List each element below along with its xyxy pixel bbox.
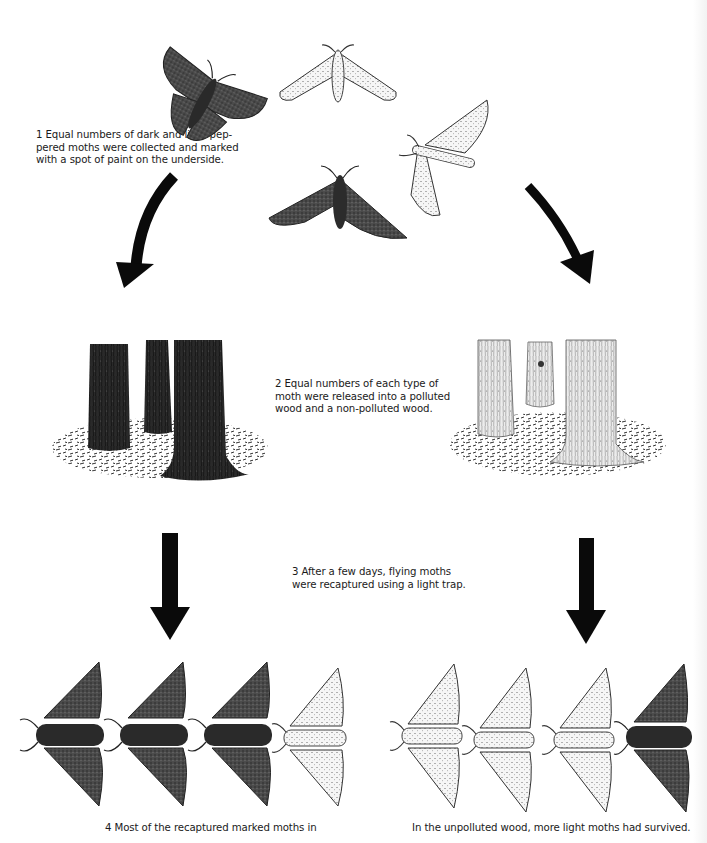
step-2-line: wood and a non-polluted wood.	[275, 403, 460, 416]
step-2-caption: 2 Equal numbers of each type of moth wer…	[275, 378, 460, 416]
unpolluted-wood-illustration	[448, 336, 668, 486]
conclusion-line: In the unpolluted wood, more light moths…	[412, 822, 707, 835]
dark-moth-icon	[140, 48, 260, 168]
step-4-caption: 4 Most of the recaptured marked moths in	[105, 822, 345, 835]
down-arrow-polluted-icon	[150, 533, 192, 643]
step-2-line: moth were released into a polluted	[275, 391, 460, 404]
step-4-line: 4 Most of the recaptured marked moths in	[105, 822, 345, 835]
light-moth-icon	[272, 40, 404, 110]
polluted-wood-illustration	[50, 336, 270, 486]
page-edge-shadow	[693, 0, 707, 843]
arrow-to-polluted-wood-icon	[110, 172, 190, 292]
unpolluted-conclusion-caption: In the unpolluted wood, more light moths…	[412, 822, 707, 835]
step-3-line: were recaptured using a light trap.	[292, 579, 477, 592]
recaptured-unpolluted-row	[384, 662, 694, 814]
arrow-to-unpolluted-wood-icon	[520, 180, 600, 290]
step-3-caption: 3 After a few days, flying moths were re…	[292, 566, 477, 591]
step-3-line: 3 After a few days, flying moths	[292, 566, 477, 579]
dark-moth-icon	[20, 662, 104, 806]
step-2-line: 2 Equal numbers of each type of	[275, 378, 460, 391]
down-arrow-unpolluted-icon	[566, 538, 608, 648]
dark-moth-icon	[265, 160, 410, 242]
light-moth-icon	[395, 95, 495, 220]
recaptured-polluted-row	[14, 658, 354, 810]
